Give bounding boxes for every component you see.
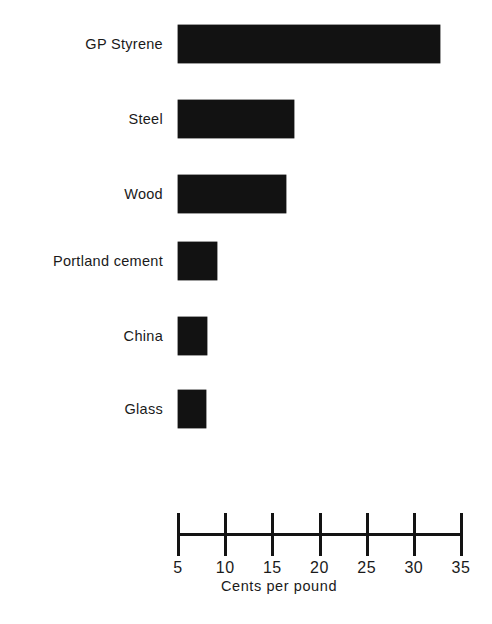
- bar: [178, 390, 206, 428]
- bar: [178, 100, 294, 138]
- bar-category-label: Steel: [128, 99, 163, 139]
- x-axis-tick-label: 25: [357, 559, 376, 577]
- bar: [178, 25, 440, 63]
- x-axis-tick-label: 10: [216, 559, 235, 577]
- x-axis-tick: [319, 513, 322, 556]
- x-axis-tick: [413, 513, 416, 556]
- x-axis-tick-label: 30: [404, 559, 423, 577]
- bar-row: Steel: [0, 99, 492, 139]
- bar: [178, 242, 217, 280]
- bar-row: Wood: [0, 174, 492, 214]
- bar-category-label: Glass: [124, 389, 163, 429]
- x-axis-title-text: Cents per pound: [221, 578, 337, 594]
- bar-category-label: Wood: [124, 174, 163, 214]
- x-axis-tick-label: 35: [452, 559, 471, 577]
- x-axis-tick: [366, 513, 369, 556]
- bar-category-label: Portland cement: [53, 241, 163, 281]
- x-axis-tick-label: 20: [310, 559, 329, 577]
- bar-row: China: [0, 316, 492, 356]
- bar-chart-figure: GP StyreneSteelWoodPortland cementChinaG…: [0, 0, 492, 624]
- bar-row: GP Styrene: [0, 24, 492, 64]
- bar-category-label: GP Styrene: [85, 24, 163, 64]
- x-axis-tick-label: 15: [263, 559, 282, 577]
- bar: [178, 317, 207, 355]
- bar-row: Portland cement: [0, 241, 492, 281]
- x-axis-tick: [460, 513, 463, 556]
- x-axis-tick: [177, 513, 180, 556]
- bar-category-label: China: [124, 316, 163, 356]
- x-axis-tick: [224, 513, 227, 556]
- bar: [178, 175, 286, 213]
- x-axis-tick-label: 5: [173, 559, 182, 577]
- x-axis: 5101520253035: [178, 513, 461, 555]
- bar-row: Glass: [0, 389, 492, 429]
- x-axis-tick: [271, 513, 274, 556]
- x-axis-title: Cents per pound: [0, 578, 492, 594]
